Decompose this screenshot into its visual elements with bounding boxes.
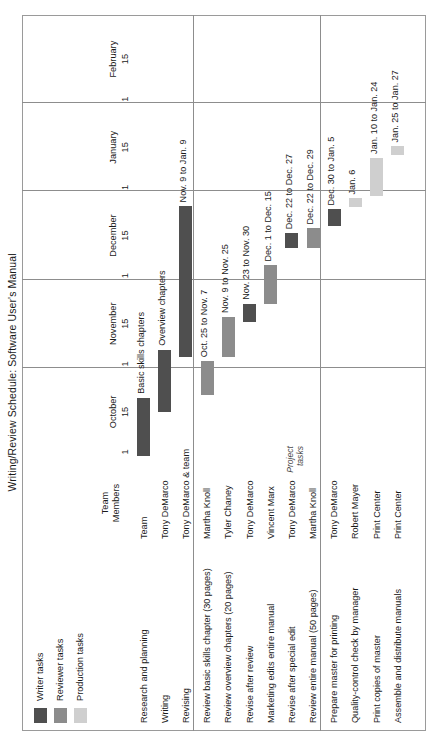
month-name: November [108, 280, 118, 368]
gantt-bar-label: Nov. 9 to Nov. 25 [220, 244, 230, 313]
gantt-bar[interactable] [264, 266, 277, 304]
gantt-bar-label: Nov. 23 to Nov. 30 [241, 226, 251, 300]
legend-label: Production tasks [75, 633, 85, 701]
task-row[interactable]: WritingTony DeMarco [154, 461, 175, 723]
gantt-bar[interactable] [349, 198, 362, 207]
task-row[interactable]: Assemble and distribute manualsPrint Cen… [387, 461, 408, 723]
task-name: Revise after special edit [287, 539, 297, 723]
legend-swatch-icon [54, 708, 67, 723]
group-separator [193, 15, 194, 731]
task-member: Tony DeMarco [245, 461, 255, 539]
gantt-bar[interactable] [328, 210, 341, 227]
task-member: Tony DeMarco [329, 461, 339, 539]
month-name: February [108, 15, 118, 103]
gantt-bar-label: Dec. 30 to Jan. 5 [326, 137, 336, 206]
task-member: Tony DeMarco [160, 461, 170, 539]
gantt-bar[interactable] [137, 398, 150, 456]
month-cell: December115 [108, 191, 134, 279]
task-name: Review overview chapters (20 pages) [223, 539, 233, 723]
task-member: Vincent Marx [266, 461, 276, 539]
gantt-bar-label: Jan. 6 [347, 170, 357, 195]
month-cell: February115 [108, 15, 134, 103]
gantt-bar[interactable] [285, 233, 298, 248]
axis-tick-label: 1 [120, 185, 130, 190]
bar-row: Dec. 30 to Jan. 5 [324, 15, 345, 456]
task-member: Martha Knoll [308, 461, 318, 539]
gantt-bar[interactable] [307, 228, 320, 247]
month-cell: October115 [108, 368, 134, 456]
task-row[interactable]: Prepare master for printingTony DeMarco [324, 461, 345, 723]
month-cell: November115 [108, 280, 134, 368]
axis-tick-label: 15 [120, 54, 130, 64]
legend: Writer tasksReviewer tasksProduction tas… [30, 637, 102, 723]
bar-row: Nov. 23 to Nov. 30 [239, 15, 260, 456]
bar-row: Overview chapters [154, 15, 175, 456]
bar-area: Project tasks Basic skills chaptersOverv… [133, 15, 408, 456]
gantt-bar[interactable] [158, 350, 171, 413]
task-row[interactable]: Revise after reviewTony DeMarco [239, 461, 260, 723]
group-separator [320, 15, 321, 731]
axis-tick-label: 1 [120, 361, 130, 366]
task-name: Prepare master for printing [329, 539, 339, 723]
task-member: Tony DeMarco & team [181, 461, 191, 539]
task-member: Robert Mayer [350, 461, 360, 539]
task-row[interactable]: Review basic skills chapter (30 pages)Ma… [197, 461, 218, 723]
gantt-bar-label: Jan. 25 to Jan. 27 [390, 70, 400, 142]
legend-item: Writer tasks [30, 637, 50, 723]
month-name: October [108, 368, 118, 456]
bar-row: Oct. 25 to Nov. 7 [197, 15, 218, 456]
task-name: Quality-control check by manager [350, 539, 360, 723]
month-cell: January115 [108, 103, 134, 191]
gantt-bar[interactable] [179, 206, 192, 357]
task-name: Revising [181, 539, 191, 723]
bar-row: Nov. 9 to Nov. 25 [218, 15, 239, 456]
month-axis: October115November115December115January1… [108, 15, 134, 456]
gantt-bar[interactable] [222, 317, 235, 357]
column-header-team-members: TeamMembers [100, 466, 122, 540]
task-member: Print Center [372, 461, 382, 539]
task-name: Writing [160, 539, 170, 723]
gantt-bar-label: Oct. 25 to Nov. 7 [199, 290, 209, 358]
page-title: Writing/Review Schedule: Software User's… [6, 0, 18, 745]
legend-swatch-icon [34, 708, 47, 723]
gantt-bar[interactable] [201, 361, 214, 395]
gantt-bar-label: Overview chapters [157, 270, 167, 345]
task-row[interactable]: Quality-control check by managerRobert M… [345, 461, 366, 723]
task-row[interactable]: Print copies of masterPrint Center [366, 461, 387, 723]
legend-label: Reviewer tasks [55, 639, 65, 701]
task-row[interactable]: Revise after special editTony DeMarco [281, 461, 302, 723]
axis-tick-label: 15 [120, 319, 130, 329]
gantt-bar-label: Basic skills chapters [136, 312, 146, 394]
gantt-bar[interactable] [243, 304, 256, 323]
legend-label: Writer tasks [35, 653, 45, 701]
gantt-chart: Writing/Review Schedule: Software User's… [0, 0, 441, 745]
gantt-bar-label: Dec. 22 to Dec. 27 [284, 154, 294, 229]
task-name: Review basic skills chapter (30 pages) [202, 539, 212, 723]
task-member: Team [139, 461, 149, 539]
task-member: Martha Knoll [202, 461, 212, 539]
axis-tick-label: 15 [120, 407, 130, 417]
task-row[interactable]: Review overview chapters (20 pages)Tyler… [218, 461, 239, 723]
legend-swatch-icon [74, 708, 87, 723]
task-row[interactable]: Research and planningTeam [133, 461, 154, 723]
task-row[interactable]: Marketing edits entire manualVincent Mar… [260, 461, 281, 723]
axis-tick-label: 1 [120, 449, 130, 454]
legend-item: Production tasks [70, 637, 90, 723]
month-name: December [108, 191, 118, 279]
axis-tick-label: 1 [120, 273, 130, 278]
month-name: January [108, 103, 118, 191]
bar-row: Dec. 1 to Dec. 15 [260, 15, 281, 456]
task-name: Marketing edits entire manual [266, 539, 276, 723]
gantt-bar-label: Nov. 9 to Jan. 9 [178, 139, 188, 202]
gantt-bar[interactable] [370, 158, 383, 196]
task-name: Research and planning [139, 539, 149, 723]
rotated-chart-wrapper: Writing/Review Schedule: Software User's… [0, 0, 441, 745]
task-name: Assemble and distribute manuals [393, 539, 403, 723]
bar-row: Jan. 10 to Jan. 24 [366, 15, 387, 456]
task-member: Print Center [393, 461, 403, 539]
bar-row: Jan. 25 to Jan. 27 [387, 15, 408, 456]
axis-tick-label: 15 [120, 230, 130, 240]
axis-tick-label: 15 [120, 142, 130, 152]
gantt-bar-label: Dec. 1 to Dec. 15 [263, 191, 273, 261]
gantt-bar[interactable] [391, 146, 404, 155]
